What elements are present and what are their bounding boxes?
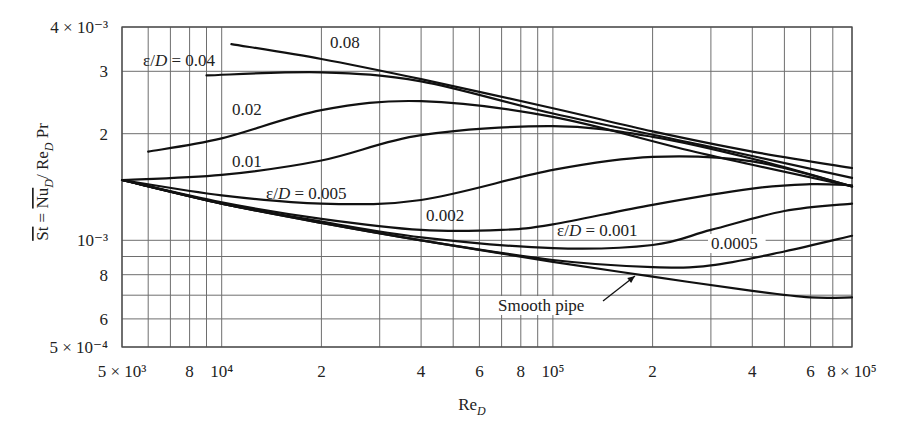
x-axis-title: ReD (458, 395, 486, 418)
chart-canvas: 0.08ε/D = 0.040.020.01ε/D = 0.0050.002ε/… (0, 0, 916, 433)
x-tick-label: 4 (417, 362, 426, 381)
x-tick-label: 5 × 10³ (98, 362, 147, 381)
x-tick-label: 8 × 10⁵ (827, 362, 877, 381)
x-tick-label: 4 (748, 362, 757, 381)
y-tick-label: 5 × 10⁻⁴ (50, 338, 109, 357)
x-tick-label: 10⁵ (541, 362, 564, 381)
curve-label: 0.01 (232, 152, 262, 171)
x-tick-label: 2 (648, 362, 657, 381)
curve-label: 0.002 (426, 206, 464, 225)
y-tick-label: 8 (100, 266, 109, 285)
y-tick-label: 3 (100, 62, 109, 81)
x-tick-label: 2 (317, 362, 326, 381)
curve-label: 0.02 (232, 100, 262, 119)
x-tick-label: 10⁴ (210, 362, 233, 381)
x-axis-ticks: 5 × 10³810⁴246810⁵2468 × 10⁵ (98, 362, 877, 381)
y-tick-label: 2 (100, 125, 109, 144)
y-tick-label: 10⁻³ (77, 231, 108, 250)
curve-label: ε/D = 0.001 (557, 221, 638, 240)
curve-0p08 (231, 44, 852, 168)
x-tick-label: 8 (517, 362, 526, 381)
curve-0p0005 (122, 180, 852, 268)
svg-text:St = NuD/ ReD Pr: St = NuD/ ReD Pr (33, 123, 56, 241)
y-axis-title: St = NuD/ ReD Pr (33, 123, 56, 241)
x-tick-label: 8 (185, 362, 194, 381)
curve-label: ε/D = 0.005 (266, 184, 347, 203)
chart: 0.08ε/D = 0.040.020.01ε/D = 0.0050.002ε/… (0, 0, 916, 433)
y-tick-label: 4 × 10⁻³ (50, 18, 108, 37)
curve-label: Smooth pipe (498, 296, 584, 315)
curve-label: ε/D = 0.04 (143, 51, 215, 70)
y-tick-label: 6 (100, 310, 109, 329)
x-tick-label: 6 (806, 362, 815, 381)
curve-label: 0.0005 (711, 234, 758, 253)
svg-text:ReD: ReD (458, 395, 486, 418)
y-axis-ticks: 4 × 10⁻³3210⁻³865 × 10⁻⁴ (50, 18, 109, 357)
curve-label: 0.08 (330, 33, 360, 52)
x-tick-label: 6 (475, 362, 484, 381)
